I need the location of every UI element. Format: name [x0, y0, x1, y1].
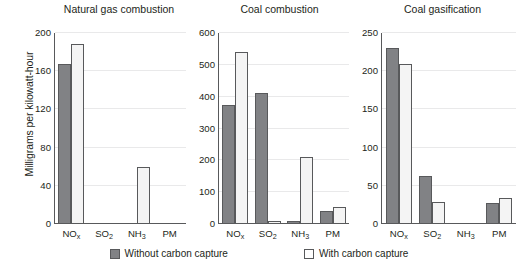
plot-area: 04080120160200NOxSO2NH3PM [54, 33, 186, 224]
bar-nh3-dark [287, 221, 300, 224]
bar-nox-light [71, 44, 84, 224]
chart-panel: Coal gasification050100150200250NOxSO2NH… [351, 0, 518, 244]
x-tick-label: PM [153, 228, 186, 239]
legend-swatch-icon [304, 249, 314, 259]
bar-pair [416, 33, 450, 224]
bar-pair [483, 33, 517, 224]
y-tick-label: 200 [362, 65, 378, 76]
bar-pair [382, 33, 416, 224]
bar-pair [219, 33, 252, 224]
y-tick-label: 300 [199, 122, 215, 133]
x-tick-label: NOx [55, 228, 88, 239]
bar-pair [317, 33, 350, 224]
bar-pm-light [499, 198, 512, 224]
legend-label: With carbon capture [319, 248, 409, 259]
bar-pair [153, 33, 186, 224]
bar-group-so2: SO2 [416, 33, 450, 224]
bar-so2-dark [419, 176, 432, 224]
chart-panel: Natural gas combustion04080120160200NOxS… [22, 0, 188, 244]
chart-panel: Coal combustion0100200300400500600NOxSO2… [188, 0, 351, 244]
bar-group-nox: NOx [219, 33, 252, 224]
bar-so2-light [432, 202, 445, 224]
bar-pair [449, 33, 483, 224]
chart-legend: Without carbon captureWith carbon captur… [0, 248, 518, 259]
panel-title: Natural gas combustion [22, 3, 202, 15]
y-tick-label: 600 [199, 27, 215, 38]
bar-so2-light [268, 221, 281, 224]
x-tick-label: SO2 [252, 228, 285, 239]
bar-pair [55, 33, 88, 224]
x-tick-label: SO2 [416, 228, 450, 239]
y-tick-label: 0 [46, 217, 51, 228]
bar-groups: NOxSO2NH3PM [219, 33, 349, 224]
legend-label: Without carbon capture [125, 248, 228, 259]
x-tick-label: SO2 [88, 228, 121, 239]
bar-groups: NOxSO2NH3PM [55, 33, 186, 224]
bar-nh3-light [137, 167, 150, 224]
y-tick-label: 150 [362, 103, 378, 114]
bar-group-nox: NOx [55, 33, 88, 224]
bar-nh3-light [300, 157, 313, 224]
x-tick-label: NH3 [449, 228, 483, 239]
y-tick-label: 400 [199, 90, 215, 101]
x-tick-label: NOx [219, 228, 252, 239]
x-tick-label: PM [483, 228, 517, 239]
emissions-bar-chart-figure: Milligrams per kilowatt-hour Natural gas… [0, 0, 518, 277]
panel-title: Coal gasification [351, 3, 518, 15]
plot-area: 0100200300400500600NOxSO2NH3PM [218, 33, 349, 224]
x-tick-label: NH3 [121, 228, 154, 239]
bar-group-nox: NOx [382, 33, 416, 224]
bar-nox-light [235, 52, 248, 224]
bar-nox-dark [222, 105, 235, 224]
x-tick-label: PM [317, 228, 350, 239]
bar-pm-dark [486, 203, 499, 224]
bar-pm-dark [320, 211, 333, 224]
bar-group-pm: PM [483, 33, 517, 224]
bar-pair [252, 33, 285, 224]
chart-panels: Natural gas combustion04080120160200NOxS… [22, 0, 518, 244]
bar-group-nh3: NH3 [284, 33, 317, 224]
bar-so2-dark [255, 93, 268, 224]
bar-nox-light [399, 64, 412, 224]
bar-group-nh3: NH3 [121, 33, 154, 224]
y-tick-label: 80 [40, 141, 51, 152]
legend-swatch-icon [110, 249, 120, 259]
y-tick-label: 40 [40, 179, 51, 190]
bar-group-so2: SO2 [252, 33, 285, 224]
y-tick-label: 100 [199, 186, 215, 197]
bar-pair [88, 33, 121, 224]
bar-groups: NOxSO2NH3PM [382, 33, 516, 224]
y-tick-label: 200 [35, 27, 51, 38]
x-tick-label: NH3 [284, 228, 317, 239]
bar-group-nh3: NH3 [449, 33, 483, 224]
bar-pair [284, 33, 317, 224]
y-tick-label: 250 [362, 27, 378, 38]
bar-nox-dark [58, 64, 71, 224]
bar-pm-light [333, 207, 346, 224]
legend-item: Without carbon capture [110, 248, 228, 259]
y-tick-label: 100 [362, 141, 378, 152]
y-tick-label: 0 [373, 217, 378, 228]
y-tick-label: 0 [210, 217, 215, 228]
bar-group-so2: SO2 [88, 33, 121, 224]
bar-group-pm: PM [153, 33, 186, 224]
y-tick-label: 120 [35, 103, 51, 114]
y-tick-label: 160 [35, 65, 51, 76]
y-tick-label: 200 [199, 154, 215, 165]
y-tick-label: 500 [199, 58, 215, 69]
panel-title: Coal combustion [188, 3, 361, 15]
x-tick-label: NOx [382, 228, 416, 239]
bar-pair [121, 33, 154, 224]
legend-item: With carbon capture [304, 248, 409, 259]
bar-group-pm: PM [317, 33, 350, 224]
bar-nox-dark [386, 48, 399, 224]
y-tick-label: 50 [367, 179, 378, 190]
plot-area: 050100150200250NOxSO2NH3PM [381, 33, 516, 224]
